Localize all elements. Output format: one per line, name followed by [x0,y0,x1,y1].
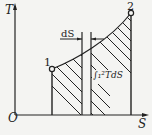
ds-arrowhead-left-icon [77,38,82,41]
t-axis-label: T [5,4,13,16]
ts-diagram: T O S 1 2 dS ∫₁²TdS [0,0,152,135]
origin-label: O [8,112,18,124]
t-axis-arrow-icon [13,3,17,10]
point-2-label: 2 [127,1,134,12]
integral-label: ∫₁²TdS [93,71,123,80]
ds-strip [82,0,91,114]
s-axis-label: S [138,118,146,130]
diagram-graphics [0,0,152,135]
ds-label: dS [61,29,74,39]
point-1-label: 1 [44,57,51,68]
ds-arrowhead-right-icon [91,38,96,41]
